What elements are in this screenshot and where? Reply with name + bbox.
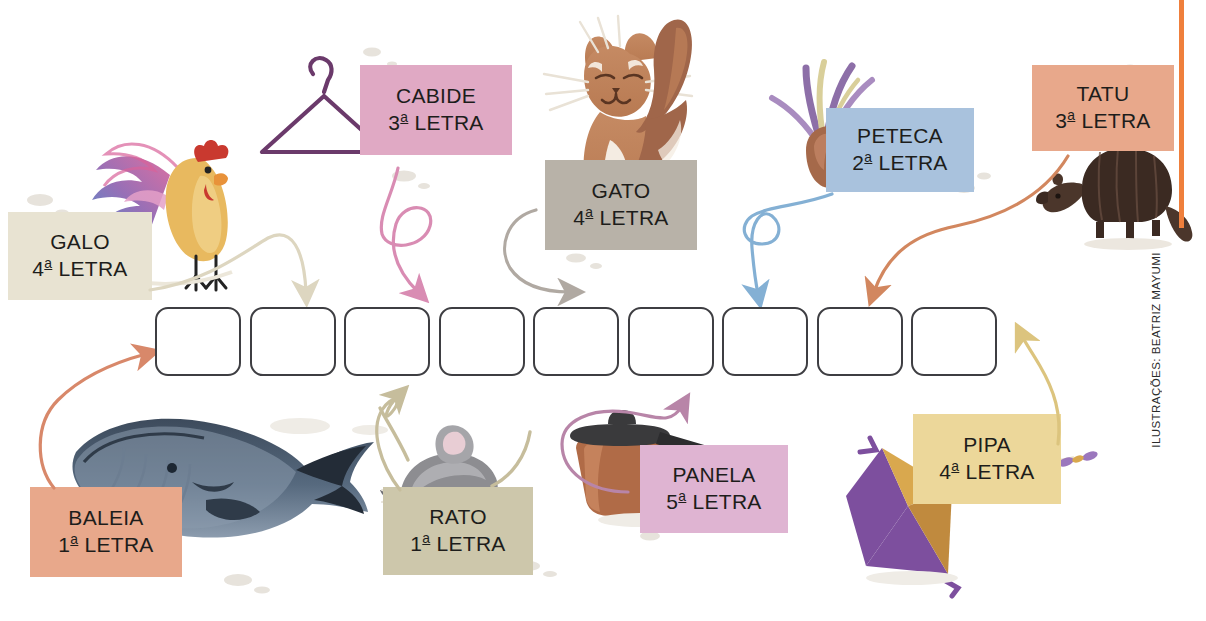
clue-word-galo: GALO bbox=[50, 230, 110, 255]
clue-letter-pipa: 4a LETRA bbox=[939, 458, 1034, 485]
answer-box[interactable] bbox=[817, 307, 903, 376]
clue-card-tatu: TATU 3a LETRA bbox=[1032, 65, 1174, 151]
arrow-baleia bbox=[40, 354, 146, 488]
answer-box[interactable] bbox=[628, 307, 714, 376]
clue-word-baleia: BALEIA bbox=[68, 506, 143, 531]
clue-word-tatu: TATU bbox=[1077, 82, 1130, 107]
worksheet-canvas: GALO 4a LETRA CABIDE 3a LETRA GATO 4a LE… bbox=[0, 0, 1206, 621]
clue-card-baleia: BALEIA 1a LETRA bbox=[30, 487, 182, 577]
answer-box[interactable] bbox=[722, 307, 808, 376]
clue-card-cabide: CABIDE 3a LETRA bbox=[360, 65, 512, 155]
orange-edge-rule bbox=[1179, 0, 1184, 228]
armadillo-illustration bbox=[1036, 148, 1192, 250]
clue-word-rato: RATO bbox=[429, 505, 487, 530]
clue-word-pipa: PIPA bbox=[963, 433, 1011, 458]
clue-letter-tatu: 3a LETRA bbox=[1055, 107, 1150, 134]
clue-card-gato: GATO 4a LETRA bbox=[545, 160, 697, 250]
clue-card-rato: RATO 1a LETRA bbox=[383, 487, 533, 575]
answer-box-row bbox=[155, 307, 997, 376]
answer-box[interactable] bbox=[439, 307, 525, 376]
arrow-rato bbox=[377, 396, 400, 490]
arrow-cabide bbox=[381, 168, 430, 292]
clue-word-cabide: CABIDE bbox=[396, 84, 476, 109]
clue-card-peteca: PETECA 2a LETRA bbox=[826, 108, 974, 192]
arrow-galo bbox=[150, 235, 306, 292]
clue-letter-peteca: 2a LETRA bbox=[852, 149, 947, 176]
illustration-credit-text: ILUSTRAÇÕES: BEATRIZ MAYUMI bbox=[1150, 252, 1162, 448]
clue-card-panela: PANELA 5a LETRA bbox=[640, 445, 788, 533]
clue-card-galo: GALO 4a LETRA bbox=[8, 212, 152, 300]
clue-letter-gato: 4a LETRA bbox=[573, 204, 668, 231]
clue-word-gato: GATO bbox=[592, 179, 651, 204]
clue-card-pipa: PIPA 4a LETRA bbox=[913, 414, 1061, 504]
answer-box[interactable] bbox=[155, 307, 241, 376]
clue-letter-cabide: 3a LETRA bbox=[388, 109, 483, 136]
clue-letter-galo: 4a LETRA bbox=[32, 255, 127, 282]
clue-letter-baleia: 1a LETRA bbox=[58, 531, 153, 558]
clue-letter-rato: 1a LETRA bbox=[410, 530, 505, 557]
answer-box[interactable] bbox=[911, 307, 997, 376]
answer-box[interactable] bbox=[250, 307, 336, 376]
arrow-peteca bbox=[744, 194, 832, 294]
clue-word-peteca: PETECA bbox=[857, 124, 943, 149]
answer-box[interactable] bbox=[344, 307, 430, 376]
answer-box[interactable] bbox=[533, 307, 619, 376]
clue-letter-panela: 5a LETRA bbox=[666, 488, 761, 515]
illustration-credit: ILUSTRAÇÕES: BEATRIZ MAYUMI bbox=[1146, 188, 1166, 448]
clue-word-panela: PANELA bbox=[672, 463, 755, 488]
